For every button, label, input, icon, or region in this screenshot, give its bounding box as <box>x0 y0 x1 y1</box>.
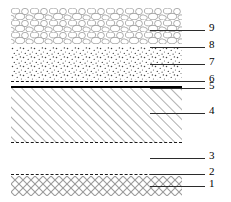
leader-line-3 <box>150 158 205 159</box>
label-4: 4 <box>209 105 215 116</box>
layer-4-bottom-dashed-edge <box>11 142 182 143</box>
label-8: 8 <box>209 39 215 50</box>
leader-line-8 <box>150 47 205 48</box>
leader-line-1 <box>150 186 205 187</box>
leader-line-7 <box>150 64 205 65</box>
label-2: 2 <box>209 166 215 177</box>
label-3: 3 <box>209 150 215 161</box>
label-1: 1 <box>209 178 215 189</box>
leader-line-4 <box>150 113 205 114</box>
label-7: 7 <box>209 56 215 67</box>
leader-line-6 <box>150 81 205 82</box>
figure-canvas: 9 8 7 6 5 4 3 2 1 <box>0 0 231 202</box>
aggregate-pattern-icon <box>11 8 182 44</box>
label-5: 5 <box>209 80 215 91</box>
leader-line-2 <box>150 174 205 175</box>
layer-4-diagonal-hatch <box>11 88 182 142</box>
layer-9-aggregate <box>11 8 182 44</box>
diagonal-hatch-pattern-icon <box>11 88 182 142</box>
leader-line-9 <box>150 30 205 31</box>
leader-line-5 <box>150 88 205 89</box>
label-9: 9 <box>209 22 215 33</box>
